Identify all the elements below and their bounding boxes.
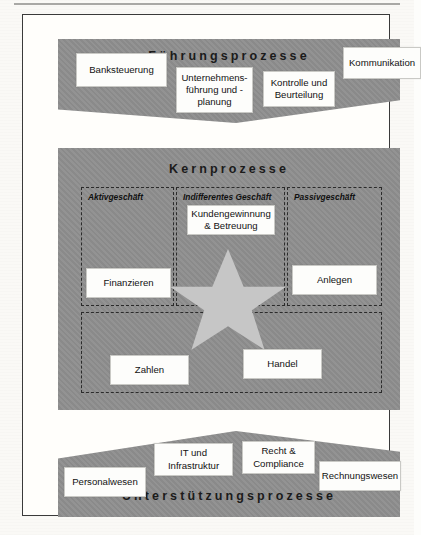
process-box-finanzieren[interactable]: Finanzieren — [86, 268, 171, 298]
group-label-indifferentes-geschaeft: Indifferentes Geschäft — [183, 192, 271, 202]
process-box-handel[interactable]: Handel — [243, 349, 322, 379]
group-label-aktivgeschaeft: Aktivgeschäft — [88, 192, 143, 202]
process-box-rechnungswesen[interactable]: Rechnungswesen — [319, 461, 401, 491]
group-label-passivgeschaeft: Passivgeschäft — [294, 192, 355, 202]
process-box-it-infrastruktur[interactable]: IT und Infrastruktur — [154, 443, 233, 476]
diagram-frame: Führungsprozesse Banksteuerung Unternehm… — [22, 14, 390, 516]
process-box-kontrolle-beurteilung[interactable]: Kontrolle und Beurteilung — [263, 71, 335, 107]
process-box-anlegen[interactable]: Anlegen — [292, 265, 377, 295]
band-title-kernprozesse: Kernprozesse — [58, 162, 400, 176]
process-box-recht-compliance[interactable]: Recht & Compliance — [242, 441, 315, 474]
page-top-rule — [14, 3, 400, 5]
process-box-unternehmensfuehrung[interactable]: Unternehmens- führung und - planung — [176, 67, 253, 113]
process-box-kundengewinnung-betreuung[interactable]: Kundengewinnung & Betreuung — [187, 205, 275, 235]
star-icon — [170, 249, 286, 353]
process-box-kommunikation[interactable]: Kommunikation — [343, 47, 421, 79]
process-box-zahlen[interactable]: Zahlen — [110, 355, 189, 385]
process-box-banksteuerung[interactable]: Banksteuerung — [76, 53, 167, 87]
process-box-personalwesen[interactable]: Personalwesen — [64, 467, 146, 497]
